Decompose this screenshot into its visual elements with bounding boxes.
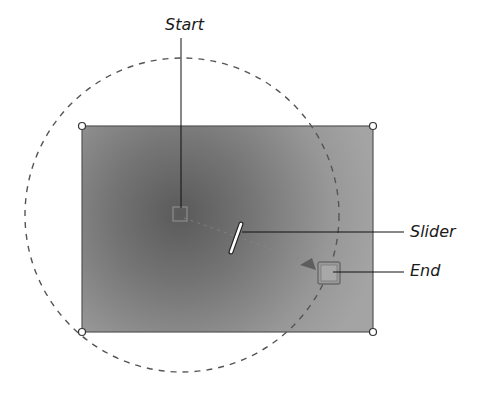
label-slider: Slider [410, 224, 456, 240]
corner-handle-top-right[interactable] [370, 123, 377, 130]
label-end: End [410, 263, 440, 279]
gradient-object-rect[interactable] [82, 126, 373, 332]
diagram-canvas [0, 0, 485, 398]
end-handle-inner [321, 265, 337, 281]
gradient-diagram: Start Slider End [0, 0, 485, 398]
corner-handle-bottom-left[interactable] [79, 329, 86, 336]
corner-handle-bottom-right[interactable] [370, 329, 377, 336]
label-start: Start [165, 17, 204, 33]
corner-handle-top-left[interactable] [79, 123, 86, 130]
